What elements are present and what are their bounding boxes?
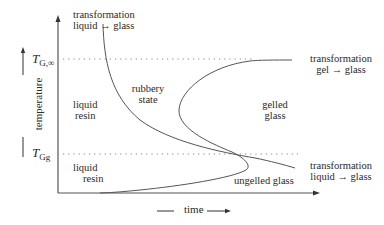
right-upper-transformation-label: transformation gel → glass [303,53,379,75]
rubbery-state-label: rubbery state [128,83,168,105]
rubbery-line1: rubbery [128,83,168,94]
right-upper-transformation-line1: transformation [303,53,379,64]
top-transformation-line1: transformation [73,9,133,20]
liquid-resin-lower-line1: liquid [73,162,103,173]
tg-inf-label: TG,∞ [32,51,54,68]
tg-gel-label: TGg [32,145,50,162]
top-transformation-label: transformation liquid → glass [73,9,133,31]
gelled-glass-label: gelled glass [255,99,295,121]
x-axis-arrow-icon [313,191,320,196]
time-arrow-icon [225,209,231,213]
tg-gel-subscript: Gg [39,152,50,162]
y-axis-arrow-icon [56,15,61,22]
rubbery-line2: state [128,94,168,105]
tg-inf-subscript: G,∞ [39,58,54,68]
diagram-canvas [0,0,384,225]
liquid-resin-lower-label: liquid resin [73,162,103,184]
liquid-resin-lower-line2: resin [73,173,103,184]
top-transformation-line2: liquid → glass [73,20,133,31]
x-axis-label: time [184,203,204,215]
liquid-resin-upper-label: liquid resin [73,99,98,121]
right-lower-transformation-line2: liquid → glass [303,171,379,182]
liquid-resin-upper-line1: liquid [73,99,98,110]
ungelled-glass-label: ungelled glass [234,175,294,186]
right-upper-transformation-line2: gel → glass [303,64,379,75]
gelled-glass-line1: gelled [255,99,295,110]
right-lower-transformation-line1: transformation [303,160,379,171]
liquid-resin-upper-line2: resin [73,110,98,121]
gelled-glass-line2: glass [255,110,295,121]
right-lower-transformation-label: transformation liquid → glass [303,160,379,182]
gelation-curve [100,60,292,193]
temperature-arrow-icon [21,47,25,53]
y-axis-label: temperature [32,78,44,131]
